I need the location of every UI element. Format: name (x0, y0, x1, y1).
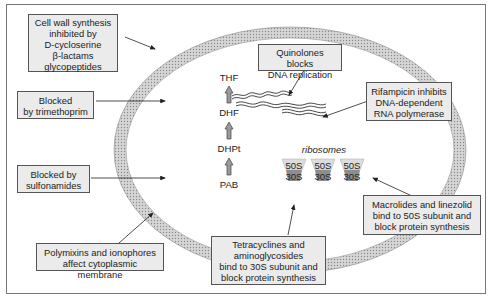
trimethoprim-box: Blocked by trimethoprim (17, 91, 94, 119)
sulfonamides-box: Blocked by sulfonamides (17, 165, 90, 193)
ribosome-50s-label: 50S (282, 160, 306, 171)
box-line: Polymixins and ionophores (40, 247, 160, 258)
box-line: Rifampicin inhibits (370, 86, 448, 97)
ribosome-30s-label: 30S (311, 171, 335, 182)
box-line: RNA polymerase (370, 108, 448, 119)
pathway-label-pab: PAB (216, 179, 242, 190)
quinolones-box: Quinolones blocks DNA replication (258, 44, 342, 71)
box-line: Macrolides and linezolid (367, 199, 477, 210)
box-line: Cell wall synthesis (32, 17, 114, 28)
ribosome-50s-label: 50S (311, 160, 335, 171)
cell-wall-synthesis-box: Cell wall synthesis inhibited by D-cyclo… (28, 14, 118, 72)
ribosome-50s-label: 50S (340, 160, 364, 171)
box-line: bind to 30S subunit and (215, 261, 322, 272)
box-line: by trimethoprim (21, 106, 90, 117)
ribosomes-label: ribosomes (292, 144, 356, 155)
box-line: block protein synthesis (215, 272, 322, 283)
tetracyclines-box: Tetracyclines and aminoglycosides bind t… (211, 236, 326, 285)
box-line: β-lactams (32, 50, 114, 61)
box-line: Blocked by (21, 169, 86, 180)
box-line: block protein synthesis (367, 221, 477, 232)
box-line: inhibited by (32, 28, 114, 39)
macrolides-box: Macrolides and linezolid bind to 50S sub… (363, 195, 481, 235)
ribosome-30s-label: 30S (340, 171, 364, 182)
ribosome-30s-label: 30S (282, 171, 306, 182)
box-line: bind to 50S subunit and (367, 210, 477, 221)
box-line: affect cytoplasmic membrane (40, 258, 160, 280)
pathway-label-dhpt: DHPt (214, 143, 244, 154)
rifampicin-box: Rifampicin inhibits DNA-dependent RNA po… (366, 82, 452, 121)
pathway-label-dhf: DHF (216, 107, 242, 118)
box-line: Tetracyclines and (215, 239, 322, 250)
box-line: sulfonamides (21, 180, 86, 191)
box-line: D-cycloserine (32, 39, 114, 50)
box-line: Blocked (21, 95, 90, 106)
pathway-label-thf: THF (216, 72, 242, 83)
box-line: glycopeptides (32, 61, 114, 72)
box-line: DNA replication (262, 69, 338, 80)
polymixins-box: Polymixins and ionophores affect cytopla… (36, 243, 164, 271)
box-line: aminoglycosides (215, 250, 322, 261)
box-line: Quinolones blocks (262, 47, 338, 69)
box-line: DNA-dependent (370, 97, 448, 108)
